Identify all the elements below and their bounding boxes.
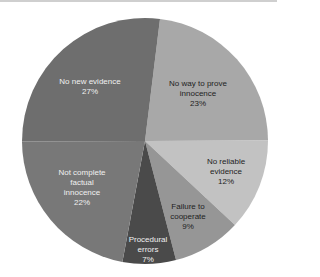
slice-label-failure-to-cooperate: Failure to cooperate9% <box>170 202 206 232</box>
slice-pct: 7% <box>129 255 168 265</box>
slice-label-no-way-to-prove: No way to prove innocence23% <box>169 79 227 109</box>
slice-pct: 12% <box>207 177 245 187</box>
slice-pct: 23% <box>169 99 227 109</box>
slice-pct: 27% <box>59 87 120 97</box>
slice-pct: 9% <box>170 222 206 232</box>
slice-label-not-complete-factual-innocence: Not complete factual innocence22% <box>58 168 105 208</box>
slice-label-no-new-evidence: No new evidence27% <box>59 77 120 97</box>
slice-pct: 22% <box>58 198 105 208</box>
slice-label-no-reliable-evidence: No reliable evidence12% <box>207 157 245 187</box>
slice-label-procedural-errors: Procedural errors7% <box>129 235 168 265</box>
